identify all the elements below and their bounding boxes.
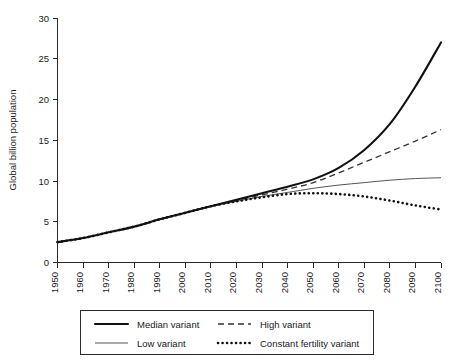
x-tick-label: 1960 [74,272,85,293]
x-tick-label: 2060 [330,272,341,293]
y-axis-label: Global billion population [7,90,18,191]
y-axis-tick-labels: 051015202530 [38,13,49,269]
legend-label-low-variant: Low variant [137,338,186,349]
x-axis-tick-labels: 1950196019701980199020002010202020302040… [49,272,444,293]
series-line-low-variant [58,178,442,242]
legend-entries: Median variantHigh variantLow variantCon… [95,319,360,349]
x-tick-label: 1990 [151,272,162,293]
series-line-median-variant [58,42,442,242]
y-tick-label: 30 [38,13,49,24]
y-tick-label: 0 [44,257,49,268]
legend-label-median-variant: Median variant [137,319,200,330]
y-tick-label: 25 [38,53,49,64]
series-line-constant-fertility-variant [58,193,442,242]
y-axis-ticks [53,18,58,263]
legend-label-high-variant: High variant [260,319,311,330]
x-tick-label: 2070 [355,272,366,293]
population-projection-chart: 051015202530 195019601970198019902000201… [0,0,453,364]
x-tick-label: 2090 [406,272,417,293]
chart-series-group [58,42,442,242]
y-tick-label: 20 [38,94,49,105]
x-tick-label: 1970 [100,272,111,293]
x-tick-label: 2040 [279,272,290,293]
x-tick-label: 1980 [125,272,136,293]
y-tick-label: 15 [38,135,49,146]
x-tick-label: 2020 [227,272,238,293]
y-tick-label: 5 [44,216,49,227]
x-tick-label: 2080 [381,272,392,293]
x-tick-label: 1950 [49,272,60,293]
x-tick-label: 2010 [202,272,213,293]
x-tick-label: 2030 [253,272,264,293]
series-line-high-variant [58,130,442,242]
y-tick-label: 10 [38,176,49,187]
x-tick-label: 2050 [304,272,315,293]
x-axis-ticks [58,263,442,269]
chart-canvas: 051015202530 195019601970198019902000201… [0,0,453,364]
legend-label-constant-fertility-variant: Constant fertility variant [260,338,360,349]
x-tick-label: 2100 [432,272,443,293]
x-tick-label: 2000 [176,272,187,293]
